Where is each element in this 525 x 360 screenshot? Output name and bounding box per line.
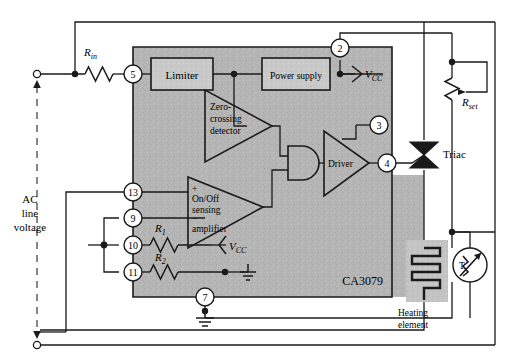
junction-input (72, 71, 78, 77)
pin-2-number: 2 (338, 43, 343, 54)
pin-13-number: 13 (128, 187, 138, 198)
resistor-rin (85, 67, 113, 81)
amp-plus-sign: + (192, 184, 197, 194)
schematic-figure: Rin Limiter Power supply VCC (0, 0, 525, 360)
pin-9-number: 9 (131, 213, 136, 224)
junction-vcc (337, 71, 343, 77)
pin-7-marker: 7 (196, 288, 214, 306)
rin-label: Rin (83, 46, 97, 61)
pin-11-number: 11 (128, 267, 138, 278)
circuit-diagram: Rin Limiter Power supply VCC (0, 0, 525, 360)
and-gate (288, 146, 319, 180)
heating-element-label-2: element (398, 320, 428, 330)
amp-line-2: sensing (192, 205, 221, 215)
chip-label: CA3079 (342, 274, 383, 288)
pin-10-marker: 10 (124, 236, 142, 254)
amp-line-3: amplifier (192, 224, 228, 234)
junction-rset-top (449, 59, 455, 65)
ac-line-label-2: line (22, 207, 39, 219)
pin-7-number: 7 (203, 292, 208, 303)
driver-label: Driver (328, 159, 354, 169)
ac-line-label-3: voltage (14, 221, 46, 233)
rset-wiper-arrow (458, 89, 466, 95)
pin-4-number: 4 (385, 158, 390, 169)
limiter-block: Limiter (151, 58, 213, 90)
junction-pin-tie (101, 242, 108, 249)
zcd-line-1: Zero- (210, 102, 231, 112)
pin-3-marker: 3 (370, 116, 388, 134)
amp-line-1: On/Off (192, 194, 220, 204)
ac-line-label-1: AC (22, 193, 37, 205)
ground-pin7 (196, 311, 214, 326)
ac-arrow-down (33, 331, 41, 339)
pin-10-number: 10 (128, 240, 138, 251)
power-supply-block: Power supply (262, 58, 330, 90)
amp-minus-sign: − (192, 214, 197, 224)
triac-symbol (410, 142, 438, 168)
heating-element-label-1: Heating (398, 308, 428, 318)
rset-label: Rset (461, 96, 478, 111)
junction-internal-ground (222, 269, 228, 275)
pin-9-marker: 9 (124, 209, 142, 227)
pin-4-marker: 4 (378, 154, 396, 172)
pin-13-marker: 13 (124, 183, 142, 201)
limiter-label: Limiter (166, 69, 199, 81)
pin-2-marker: 2 (331, 39, 349, 57)
ac-terminal-top (33, 70, 40, 77)
power-supply-label: Power supply (270, 71, 322, 81)
pin-11-marker: 11 (124, 263, 142, 281)
zcd-line-3: detector (210, 126, 241, 136)
heating-element (406, 240, 448, 302)
pin-5-marker: 5 (124, 65, 142, 83)
pin-3-number: 3 (377, 120, 382, 131)
ac-terminal-bottom (33, 341, 40, 348)
triac-label: Triac (443, 148, 466, 160)
thermistor: T (452, 248, 487, 282)
ac-arrow-up (33, 80, 41, 88)
zcd-line-2: crossing (210, 114, 242, 124)
pin-5-number: 5 (131, 69, 136, 80)
thermistor-label: T (459, 261, 465, 271)
junction-limiter-out (231, 71, 237, 77)
